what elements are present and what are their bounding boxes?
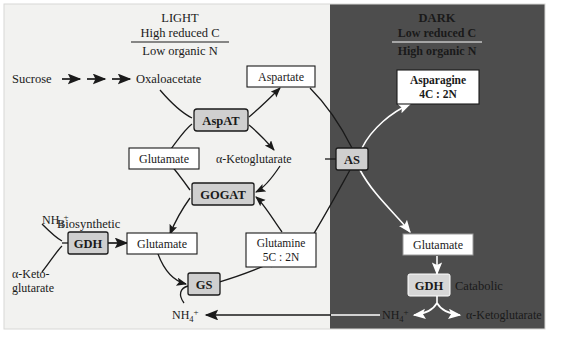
- enzyme-gdh-biosynthetic: GDH: [68, 232, 108, 254]
- box-glutamate-dark: Glutamate: [403, 234, 473, 255]
- dark-denominator: High organic N: [398, 44, 477, 58]
- label-alpha-keto-line2: glutarate: [12, 281, 54, 295]
- label-asparagine: Asparagine: [410, 74, 466, 87]
- box-asparagine: Asparagine 4C : 2N: [397, 70, 479, 104]
- label-glutamine-ratio: 5C : 2N: [263, 251, 300, 263]
- label-glutamate-upper: Glutamate: [139, 152, 189, 166]
- label-alpha-ketoglutarate-dark: α-Ketoglutarate: [466, 308, 542, 322]
- metabolite-oxaloacetate: Oxaloacetate: [136, 72, 202, 86]
- label-aspat: AspAT: [202, 114, 240, 128]
- enzyme-aspat: AspAT: [194, 109, 248, 131]
- light-heading: LIGHT: [161, 11, 199, 25]
- label-gs: GS: [196, 278, 213, 292]
- label-glutamine: Glutamine: [257, 237, 306, 249]
- label-gdh-catabolic: GDH: [415, 279, 444, 293]
- label-catabolic: Catabolic: [455, 279, 503, 293]
- enzyme-gs: GS: [188, 273, 220, 295]
- box-glutamate-upper: Glutamate: [129, 148, 199, 169]
- enzyme-gdh-catabolic: GDH: [408, 274, 450, 296]
- metabolite-sucrose: Sucrose: [12, 72, 52, 86]
- figure-canvas: LIGHT High reduced C Low organic N DARK …: [0, 0, 561, 356]
- box-aspartate: Aspartate: [247, 66, 315, 87]
- label-alpha-ketoglutarate-center: α-Ketoglutarate: [216, 152, 292, 166]
- label-alpha-keto-line1: α-Keto-: [12, 267, 50, 281]
- label-gogat: GOGAT: [200, 188, 246, 202]
- label-as: AS: [344, 153, 360, 167]
- enzyme-gogat: GOGAT: [192, 183, 254, 205]
- label-glutamate-left: Glutamate: [137, 237, 187, 251]
- enzyme-as: AS: [336, 148, 368, 170]
- dark-heading: DARK: [419, 11, 456, 25]
- label-glutamate-dark: Glutamate: [413, 238, 463, 252]
- dark-numerator: Low reduced C: [398, 26, 476, 40]
- light-denominator: Low organic N: [142, 44, 217, 58]
- pathway-diagram: LIGHT High reduced C Low organic N DARK …: [0, 0, 561, 356]
- label-biosynthetic: Biosynthetic: [57, 217, 121, 231]
- light-numerator: High reduced C: [140, 26, 219, 40]
- label-asparagine-ratio: 4C : 2N: [419, 88, 457, 100]
- box-glutamate-left: Glutamate: [127, 233, 197, 254]
- box-glutamine: Glutamine 5C : 2N: [246, 233, 316, 267]
- label-aspartate: Aspartate: [258, 70, 304, 84]
- label-gdh-biosynthetic: GDH: [74, 237, 103, 251]
